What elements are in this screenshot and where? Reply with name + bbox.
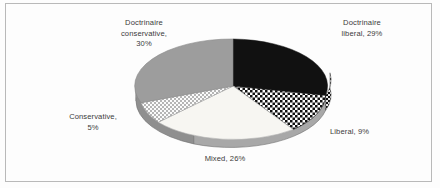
screenshot-root: Doctrinaire liberal, 29% Doctrinaire con…: [0, 0, 440, 188]
pie-label-doctrinaire-liberal: Doctrinaire liberal, 29%: [316, 18, 408, 39]
slice-doctrinaire-liberal: [233, 39, 328, 95]
pie-label-conservative: Conservative, 5%: [52, 112, 134, 133]
pie-label-liberal: Liberal, 9%: [330, 127, 404, 138]
pie-label-doctrinaire-conservative: Doctrinaire conservative, 30%: [96, 18, 192, 50]
pie-top-face: [135, 39, 328, 140]
pie-label-mixed: Mixed, 26%: [176, 154, 274, 165]
